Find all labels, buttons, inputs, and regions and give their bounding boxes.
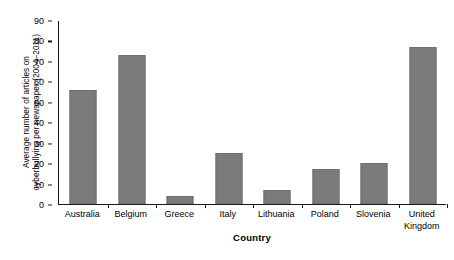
- x-axis-category-label-line: Kingdom: [398, 221, 447, 233]
- bar-slot: [399, 21, 448, 204]
- x-axis-title: Country: [58, 232, 446, 243]
- y-axis-tick-mark: [48, 61, 52, 62]
- bar[interactable]: [70, 90, 97, 204]
- y-axis-tick-mark: [48, 20, 52, 21]
- y-axis-tick-mark: [48, 41, 52, 42]
- bar-slot: [302, 21, 351, 204]
- x-axis-tick-mark: [253, 204, 254, 208]
- y-axis-tick-label: 80: [34, 37, 44, 46]
- y-axis-ticks: 0102030405060708090: [0, 21, 52, 205]
- y-axis-tick-mark: [48, 204, 52, 205]
- y-axis-tick-label: 30: [34, 139, 44, 148]
- bar-slot: [108, 21, 157, 204]
- x-axis-category-label-line: Poland: [301, 209, 350, 221]
- x-axis-category-label-line: Italy: [204, 209, 253, 221]
- x-axis-category-label: UnitedKingdom: [398, 209, 447, 232]
- x-axis-tick-mark: [108, 204, 109, 208]
- x-axis-category-label: Slovenia: [349, 209, 398, 221]
- bar[interactable]: [312, 169, 339, 204]
- x-axis-category-label: Poland: [301, 209, 350, 221]
- y-axis-tick-mark: [48, 102, 52, 103]
- x-axis-category-label-line: Slovenia: [349, 209, 398, 221]
- bar[interactable]: [215, 153, 242, 204]
- y-axis-tick-label: 0: [39, 201, 44, 210]
- y-axis-tick-label: 90: [34, 17, 44, 26]
- y-axis-tick-mark: [48, 184, 52, 185]
- x-axis-tick-mark: [156, 204, 157, 208]
- y-axis-tick-label: 40: [34, 119, 44, 128]
- y-axis-tick-mark: [48, 82, 52, 83]
- x-axis-tick-mark: [447, 204, 448, 208]
- bar-slot: [350, 21, 399, 204]
- bar[interactable]: [118, 55, 145, 204]
- x-axis-category-label-line: Belgium: [107, 209, 156, 221]
- bar-slot: [59, 21, 108, 204]
- bars-layer: [59, 21, 446, 204]
- y-axis-tick-mark: [48, 143, 52, 144]
- y-axis-tick-label: 60: [34, 78, 44, 87]
- x-axis-category-label: Australia: [58, 209, 107, 221]
- y-axis-tick-label: 20: [34, 160, 44, 169]
- bar-chart: Average number of articles on cyberbully…: [0, 0, 454, 260]
- bar[interactable]: [361, 163, 388, 204]
- bar[interactable]: [167, 196, 194, 204]
- bar[interactable]: [409, 47, 436, 204]
- y-axis-tick-mark: [48, 164, 52, 165]
- y-axis-tick-label: 50: [34, 98, 44, 107]
- plot-area: [58, 21, 446, 205]
- y-axis-tick-label: 70: [34, 57, 44, 66]
- y-axis-tick-mark: [48, 123, 52, 124]
- y-axis-tick-label: 10: [34, 180, 44, 189]
- x-axis-category-label: Lithuania: [252, 209, 301, 221]
- x-axis-category-label-line: Australia: [58, 209, 107, 221]
- x-axis-category-label-line: Greece: [155, 209, 204, 221]
- x-axis-tick-mark: [399, 204, 400, 208]
- x-axis-tick-mark: [350, 204, 351, 208]
- x-axis-category-label: Greece: [155, 209, 204, 221]
- bar-slot: [253, 21, 302, 204]
- x-axis-tick-mark: [302, 204, 303, 208]
- bar[interactable]: [264, 190, 291, 204]
- x-axis-category-label-line: United: [398, 209, 447, 221]
- bar-slot: [205, 21, 254, 204]
- x-axis-tick-mark: [205, 204, 206, 208]
- x-axis-category-label: Italy: [204, 209, 253, 221]
- x-axis-category-label: Belgium: [107, 209, 156, 221]
- bar-slot: [156, 21, 205, 204]
- x-axis-category-label-line: Lithuania: [252, 209, 301, 221]
